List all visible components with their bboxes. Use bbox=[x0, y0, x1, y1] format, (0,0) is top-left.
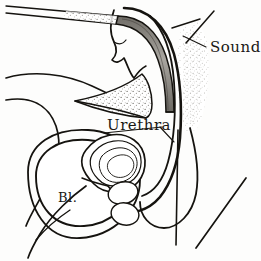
medical-illustration-figure: Sound Urethra Bl. bbox=[0, 0, 261, 261]
label-bladder: Bl. bbox=[58, 190, 77, 205]
illustration-canvas: Sound Urethra Bl. bbox=[0, 0, 261, 261]
label-sound: Sound bbox=[210, 38, 261, 56]
label-urethra: Urethra bbox=[107, 116, 171, 134]
